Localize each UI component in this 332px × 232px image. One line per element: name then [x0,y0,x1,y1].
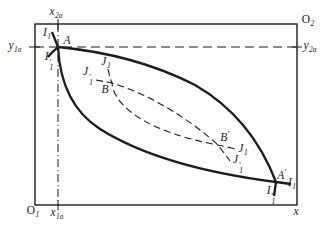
label-J1-prime-at-B: J′1 [83,66,93,86]
indifference-curve-J1 [108,69,236,149]
label-B: B [101,84,108,96]
label-I1-prime-at-A-prime: I′1 [267,185,276,205]
label-O2: O2 [302,14,315,28]
label-O1: O1 [27,205,40,219]
label-I1-at-A-prime: I1 [288,177,296,191]
edgeworth-box-diagram: x2aO2y1ay2aI1AI′1J1J′1BB′J1J′1A′I1I′1O1x… [0,0,332,232]
indifference-curve-I1 [52,32,291,184]
label-x2a: x2a [49,6,62,20]
label-x1a: x1a [50,207,63,221]
label-y1a: y1a [8,40,21,54]
label-J1-prime-at-B-prime: J′1 [233,154,243,174]
label-I1-at-A: I1 [43,27,51,41]
box-outline [35,24,297,205]
label-A-prime: A′ [277,168,287,182]
label-B-prime: B′ [220,130,230,144]
label-I1-prime-at-A: I′1 [45,51,54,71]
label-J1-at-B: J1 [101,56,110,70]
label-y2a: y2a [303,40,316,54]
indifference-curve-J1-prime [96,80,230,161]
label-x: x [293,206,298,218]
label-A: A [63,35,70,47]
